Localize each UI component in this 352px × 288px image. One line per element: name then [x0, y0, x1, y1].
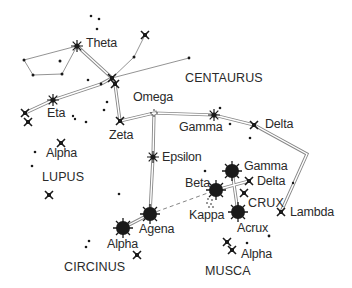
- star-label-lambda: Lambda: [290, 206, 334, 219]
- star-chart: [0, 0, 352, 288]
- star-label-delta-cen: Delta: [265, 118, 293, 131]
- star-label-delta-crux: Delta: [257, 175, 285, 188]
- constellation-label-lupus: LUPUS: [42, 171, 84, 184]
- bright-stars: [113, 161, 248, 238]
- star-label-alpha-lupus: Alpha: [46, 147, 77, 160]
- star-label-omega: Omega: [133, 91, 173, 104]
- kappa-cluster-icon: [206, 198, 214, 208]
- star-label-kappa: Kappa: [189, 209, 224, 222]
- constellation-label-musca: MUSCA: [205, 265, 251, 278]
- star-label-agena: Agena: [139, 223, 174, 236]
- star-label-beta-crux: Beta: [185, 177, 210, 190]
- constellation-label-centaurus: CENTAURUS: [185, 72, 263, 85]
- constellation-label-crux: CRUX: [248, 197, 284, 210]
- star-label-eta: Eta: [47, 107, 65, 120]
- star-label-acrux: Acrux: [237, 222, 268, 235]
- star-label-theta: Theta: [86, 37, 117, 50]
- star-label-gamma-crux: Gamma: [244, 160, 287, 173]
- star-label-gamma-cen: Gamma: [179, 121, 222, 134]
- constellation-label-circinus: CIRCINUS: [64, 261, 125, 274]
- star-label-alpha-musca: Alpha: [241, 248, 272, 261]
- star-label-alpha-cen: Alpha: [107, 238, 138, 251]
- star-label-zeta: Zeta: [109, 129, 133, 142]
- star-label-epsilon: Epsilon: [162, 151, 202, 164]
